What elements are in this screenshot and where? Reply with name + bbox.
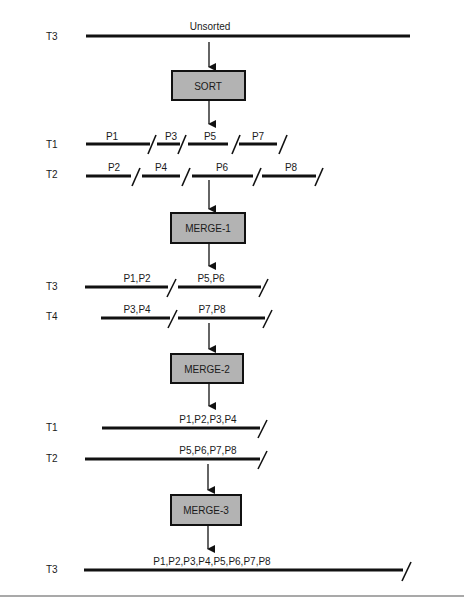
tape-label-t1: T1 bbox=[46, 422, 58, 433]
stage-merge-3-output: T3 P1,P2,P3,P4,P5,P6,P7,P8 bbox=[46, 556, 411, 581]
merge-2-box: MERGE-2 bbox=[171, 354, 243, 383]
tape-t1: P1,P2,P3,P4 bbox=[102, 414, 267, 438]
tape-t4: P3,P4 P7,P8 bbox=[101, 304, 272, 328]
tape-t3: P1,P2 P5,P6 bbox=[85, 273, 268, 297]
segment-separator bbox=[167, 279, 176, 297]
segment-label: P5,P6 bbox=[197, 273, 225, 284]
merge-1-box: MERGE-1 bbox=[171, 213, 245, 243]
merge-sort-diagram: T3 Unsorted SORT T1 P1 P3 P5 P7 T2 bbox=[0, 0, 468, 608]
segment-separator bbox=[279, 135, 287, 154]
sort-box-label: SORT bbox=[194, 81, 222, 92]
sort-box: SORT bbox=[172, 71, 245, 100]
tape-t1: P1 P3 P5 P7 bbox=[86, 131, 287, 154]
tape-label-t3: T3 bbox=[46, 564, 58, 575]
segment-separator bbox=[253, 168, 261, 186]
merge-1-box-label: MERGE-1 bbox=[185, 223, 231, 234]
stage-merge-1-output: T3 P1,P2 P5,P6 T4 P3,P4 P7,P8 bbox=[46, 273, 272, 328]
segment-label: P1,P2,P3,P4 bbox=[179, 414, 237, 425]
segment-label: P1,P2 bbox=[123, 273, 151, 284]
tape-label-t2: T2 bbox=[46, 453, 58, 464]
segment-label: P1 bbox=[106, 131, 119, 142]
segment-separator bbox=[402, 562, 411, 581]
segment-separator bbox=[315, 168, 323, 186]
segment-label: P4 bbox=[155, 162, 168, 173]
segment-label: P5,P6,P7,P8 bbox=[179, 445, 237, 456]
segment-label: P8 bbox=[285, 162, 298, 173]
stage-merge-2-output: T1 P1,P2,P3,P4 T2 P5,P6,P7,P8 bbox=[46, 414, 267, 469]
segment-separator bbox=[132, 168, 140, 186]
stage-sort-output: T1 P1 P3 P5 P7 T2 P2 P4 bbox=[46, 131, 323, 186]
tape-label-t2: T2 bbox=[46, 169, 58, 180]
segment-separator bbox=[232, 135, 240, 154]
segment-label: P3 bbox=[165, 131, 178, 142]
tape-label-t3: T3 bbox=[46, 31, 58, 42]
segment-label-unsorted: Unsorted bbox=[190, 21, 231, 32]
tape-t2: P5,P6,P7,P8 bbox=[85, 445, 267, 469]
merge-3-box-label: MERGE-3 bbox=[183, 505, 229, 516]
merge-3-box: MERGE-3 bbox=[171, 495, 241, 525]
segment-label: P6 bbox=[216, 162, 229, 173]
segment-label: P7 bbox=[252, 131, 265, 142]
segment-separator bbox=[182, 168, 190, 186]
segment-label: P2 bbox=[108, 162, 121, 173]
tape-t2: P2 P4 P6 P8 bbox=[86, 162, 323, 186]
tape-label-t3: T3 bbox=[46, 281, 58, 292]
segment-label: P5 bbox=[204, 131, 217, 142]
merge-2-box-label: MERGE-2 bbox=[184, 364, 230, 375]
tape-label-t1: T1 bbox=[46, 139, 58, 150]
segment-label: P1,P2,P3,P4,P5,P6,P7,P8 bbox=[153, 556, 271, 567]
tape-label-t4: T4 bbox=[46, 311, 58, 322]
stage-unsorted: T3 Unsorted bbox=[46, 21, 410, 42]
segment-label: P3,P4 bbox=[123, 304, 151, 315]
segment-label: P7,P8 bbox=[198, 304, 226, 315]
